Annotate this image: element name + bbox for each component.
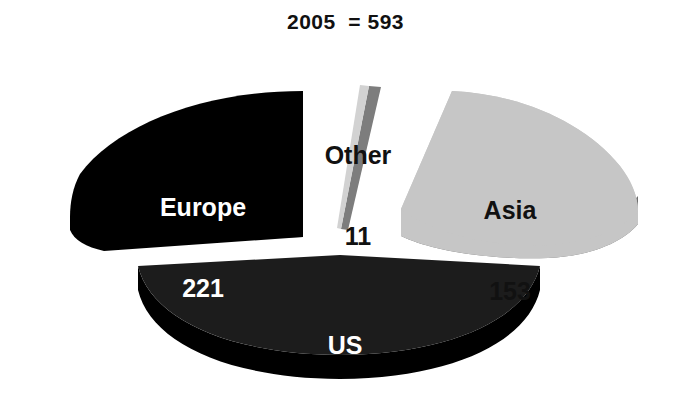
pie-slice-other	[337, 85, 381, 230]
pie-slice-europe-top	[70, 91, 303, 241]
pie-chart-graphic	[0, 54, 691, 394]
pie-slice-europe	[70, 91, 303, 251]
pie-slice-asia	[401, 91, 638, 258]
pie-chart-figure: 2005 = 593 Europe 221 Oth	[0, 0, 691, 413]
pie-slice-us	[138, 255, 540, 379]
pie-slice-asia-top-rounded	[401, 91, 638, 245]
chart-title: 2005 = 593	[0, 10, 691, 34]
